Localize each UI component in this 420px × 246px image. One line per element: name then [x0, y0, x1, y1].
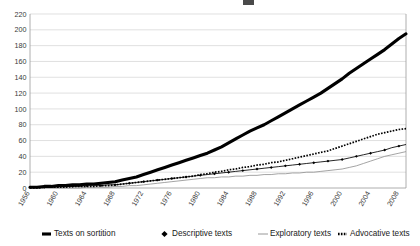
- y-axis-tick-label: 200: [15, 25, 27, 34]
- legend-item-label: Exploratory texts: [270, 229, 331, 238]
- y-axis-tick-label: 140: [15, 73, 27, 82]
- chart-legend: Texts on sortitionDescriptive textsExplo…: [42, 229, 410, 238]
- legend-item: Texts on sortition: [42, 229, 116, 238]
- line-chart: 020406080100120140160180200220 195619601…: [0, 0, 420, 246]
- top-edge-artifact: [243, 0, 254, 5]
- y-axis-tick-label: 40: [19, 152, 27, 161]
- y-axis-tick-label: 160: [15, 57, 27, 66]
- y-axis-tick-label: 80: [19, 120, 27, 129]
- legend-item-label: Advocative texts: [350, 229, 410, 238]
- legend-item-label: Descriptive texts: [172, 229, 232, 238]
- legend-item: Descriptive texts: [161, 229, 232, 238]
- legend-item-label: Texts on sortition: [54, 229, 116, 238]
- y-axis-tick-label: 60: [19, 136, 27, 145]
- chart-container: 020406080100120140160180200220 195619601…: [0, 0, 420, 246]
- y-axis-tick-label: 120: [15, 89, 27, 98]
- y-axis-tick-label: 100: [15, 105, 27, 114]
- y-axis-tick-label: 220: [15, 10, 27, 19]
- y-axis-tick-label: 20: [19, 168, 27, 177]
- chart-background: [0, 0, 420, 246]
- y-axis-tick-label: 180: [15, 41, 27, 50]
